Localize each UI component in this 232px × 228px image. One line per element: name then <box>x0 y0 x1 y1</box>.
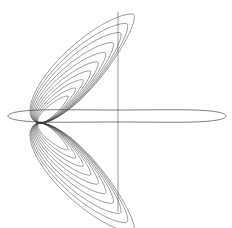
lower-lobe-curve <box>31 123 128 223</box>
upper-lobe-family <box>30 14 134 123</box>
figure-canvas <box>0 0 232 228</box>
upper-lobe-curve <box>32 33 121 123</box>
upper-lobe-curve <box>34 52 106 123</box>
lower-lobe-curve <box>32 123 121 213</box>
curve-plot <box>0 0 232 228</box>
lower-lobe-curve <box>34 123 106 194</box>
lower-lobe-curve <box>33 123 114 203</box>
upper-lobe-curve <box>30 14 134 123</box>
lower-lobe-family <box>30 123 134 228</box>
upper-lobe-curve <box>31 23 128 123</box>
upper-lobe-curve <box>33 43 114 123</box>
lower-lobe-curve <box>30 123 134 228</box>
